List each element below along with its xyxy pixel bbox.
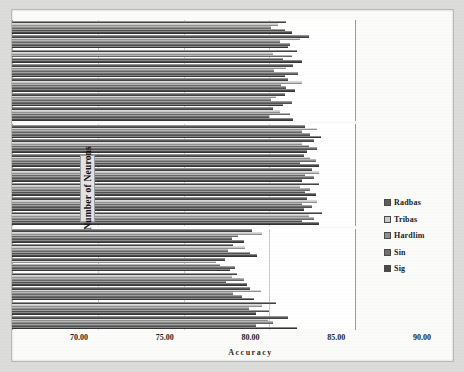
- category-axis-title: Number of Neurons: [80, 155, 95, 222]
- legend-swatch-icon: [384, 265, 391, 272]
- legend-item-tribas[interactable]: Tribas: [384, 215, 450, 224]
- bar-sig-200: [12, 283, 247, 286]
- gridline: [269, 229, 270, 330]
- scanned-page-background: ELM-II35030025020015010050ELM-I350300250…: [0, 0, 464, 372]
- legend-item-sig[interactable]: Sig: [384, 264, 450, 273]
- gridline: [355, 229, 356, 330]
- value-axis-title: Accuracy: [79, 348, 422, 357]
- value-tick-label: 70.00: [70, 333, 88, 342]
- grouped-horizontal-bar-chart: ELM-II35030025020015010050ELM-I350300250…: [12, 10, 455, 363]
- legend-swatch-icon: [384, 249, 391, 256]
- bar-sig-300: [12, 150, 307, 153]
- value-tick-label: 90.00: [413, 333, 431, 342]
- legend-swatch-icon: [384, 232, 391, 239]
- gridline: [355, 124, 356, 225]
- bar-sig-150: [12, 193, 316, 196]
- legend-item-label: Hardlim: [394, 231, 425, 240]
- bar-sig-100: [12, 104, 283, 107]
- legend-swatch-icon: [384, 216, 391, 223]
- bar-sig-300: [12, 46, 288, 49]
- bar-sig-350: [12, 31, 292, 34]
- bar-sig-100: [12, 312, 256, 315]
- chart-page: ELM-II35030025020015010050ELM-I350300250…: [11, 9, 454, 362]
- category-axis-title-label: Number of Neurons: [83, 146, 93, 230]
- bar-sig-200: [12, 75, 285, 78]
- bar-sig-250: [12, 60, 302, 63]
- legend-item-radbas[interactable]: Radbas: [384, 198, 450, 207]
- value-axis-ticks: 70.0075.0080.0085.0090.00: [79, 333, 422, 347]
- legend: RadbasTribasHardlimSinSig: [384, 198, 450, 281]
- bar-sig-350: [12, 240, 244, 243]
- legend-item-label: Radbas: [394, 198, 421, 207]
- legend-item-label: Tribas: [394, 215, 417, 224]
- legend-swatch-icon: [384, 199, 391, 206]
- bar-sig-300: [12, 254, 257, 257]
- bar-sig-50: [12, 222, 319, 225]
- gridline: [355, 20, 356, 121]
- legend-item-hardlim[interactable]: Hardlim: [384, 231, 450, 240]
- bar-sig-200: [12, 179, 302, 182]
- value-tick-label: 80.00: [242, 333, 260, 342]
- bar-sig-50: [12, 118, 293, 121]
- bar-sig-150: [12, 89, 295, 92]
- bar-sig-350: [12, 136, 321, 139]
- bar-sig-250: [12, 269, 230, 272]
- bar-sig-250: [12, 164, 319, 167]
- value-tick-label: 75.00: [156, 333, 174, 342]
- plot-panel-elm-ii: [12, 20, 355, 121]
- bar-sig-100: [12, 208, 304, 211]
- legend-item-label: Sin: [394, 248, 406, 257]
- plot-panel-elm-i: [12, 124, 355, 225]
- plot-panel-elm: [12, 229, 355, 330]
- value-tick-label: 85.00: [327, 333, 345, 342]
- bar-sig-50: [12, 327, 297, 330]
- legend-item-label: Sig: [394, 264, 405, 273]
- bar-sig-150: [12, 298, 254, 301]
- legend-item-sin[interactable]: Sin: [384, 248, 450, 257]
